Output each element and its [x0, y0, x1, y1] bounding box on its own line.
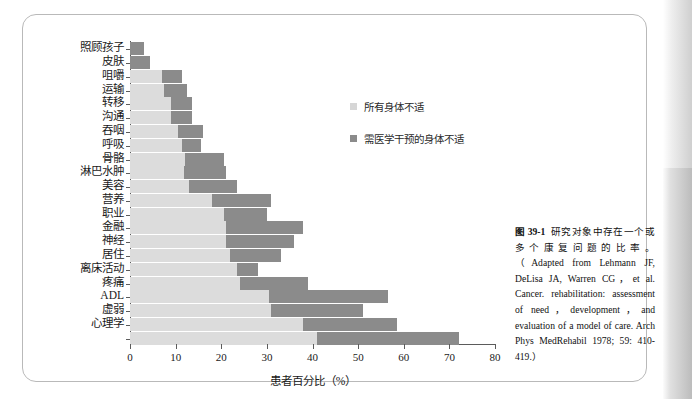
bar-segment-all [130, 70, 162, 83]
caption-source: （Adapted from Lehmann JF, DeLisa JA, War… [515, 257, 655, 362]
y-axis-label-text: 美容 [44, 179, 124, 192]
bar-segment-all [130, 125, 178, 138]
page-edge-band-top [663, 0, 692, 168]
bar-row [130, 263, 495, 276]
y-axis-label-text: 金融 [44, 220, 124, 233]
bar-segment-medical [182, 139, 200, 152]
bar-segment-medical [226, 235, 294, 248]
x-axis-tick [358, 344, 359, 349]
bar-segment-medical [171, 97, 192, 110]
x-axis-tick [130, 344, 131, 349]
bar-row [130, 290, 495, 303]
x-axis-tick [176, 344, 177, 349]
y-axis-label-text: 咀嚼 [44, 69, 124, 82]
bar-row [130, 208, 495, 221]
legend-label: 需医学干预的身体不适 [364, 131, 464, 146]
x-axis-tick [495, 344, 496, 349]
y-axis-label-text: 疼痛 [44, 276, 124, 289]
bar-segment-medical [164, 84, 187, 97]
y-axis-label: 心理学 [44, 317, 124, 330]
bar-segment-medical [212, 194, 271, 207]
y-axis-label: 运输 [44, 83, 124, 96]
legend-swatch [350, 135, 357, 142]
bar-segment-medical [226, 221, 304, 234]
page-edge-band-bottom [663, 168, 692, 399]
y-axis-label: 吞咽 [44, 124, 124, 137]
bar-row [130, 318, 495, 331]
bar-segment-medical [189, 180, 237, 193]
bar-row [130, 70, 495, 83]
y-axis-label: 照顾孩子 [44, 41, 124, 54]
bar-segment-medical [130, 42, 144, 55]
bar-row [130, 221, 495, 234]
x-axis-tick-label: 20 [206, 351, 236, 363]
x-axis-tick-label: 70 [434, 351, 464, 363]
y-axis-label: 居住 [44, 248, 124, 261]
bar-segment-all [130, 180, 189, 193]
x-axis-tick [313, 344, 314, 349]
y-axis-label-text: 离床活动 [44, 262, 124, 275]
bar-segment-all [130, 166, 184, 179]
figure-card: 照顾孩子皮肤咀嚼运输转移沟通吞咽呼吸骨骼淋巴水肿美容营养职业金融神经居住离床活动… [22, 14, 647, 382]
bar-segment-all [130, 111, 171, 124]
y-axis-label: 职业 [44, 207, 124, 220]
bar-row [130, 180, 495, 193]
figure-number: 图 39-1 [515, 226, 545, 237]
y-axis-label-text: 沟通 [44, 110, 124, 123]
x-axis-tick-label: 80 [480, 351, 510, 363]
plot-area: 照顾孩子皮肤咀嚼运输转移沟通吞咽呼吸骨骼淋巴水肿美容营养职业金融神经居住离床活动… [130, 41, 495, 344]
y-axis-label: 转移 [44, 96, 124, 109]
y-axis-label: 呼吸 [44, 138, 124, 151]
x-axis-tick [449, 344, 450, 349]
y-axis-label: 神经 [44, 234, 124, 247]
y-axis-label-text: 运输 [44, 83, 124, 96]
bar-row [130, 304, 495, 317]
bar-row [130, 42, 495, 55]
bar-segment-medical [185, 153, 224, 166]
bar-segment-all [130, 97, 171, 110]
x-axis-title: 患者百分比（%） [130, 372, 496, 388]
y-axis-label: 离床活动 [44, 262, 124, 275]
legend-label: 所有身体不适 [364, 99, 424, 114]
bar-segment-all [130, 318, 303, 331]
bar-segment-all [130, 263, 237, 276]
bar-segment-medical [269, 290, 388, 303]
bar-row [130, 235, 495, 248]
y-axis-label-text: 职业 [44, 207, 124, 220]
chart-legend: 所有身体不适需医学干预的身体不适 [350, 99, 540, 163]
bar-segment-all [130, 290, 269, 303]
y-axis-label-text: 淋巴水肿 [44, 165, 124, 178]
page-edge-decoration [663, 0, 692, 399]
bar-chart: 照顾孩子皮肤咀嚼运输转移沟通吞咽呼吸骨骼淋巴水肿美容营养职业金融神经居住离床活动… [48, 27, 510, 379]
y-axis-label-text: 心理学 [44, 317, 124, 330]
y-axis-label-text: 神经 [44, 234, 124, 247]
y-axis-label-text: 营养 [44, 193, 124, 206]
x-axis-tick-label: 0 [115, 351, 145, 363]
y-axis-label: ADL [44, 289, 124, 302]
bar-segment-medical [171, 111, 192, 124]
y-axis-label: 疼痛 [44, 276, 124, 289]
y-axis-label-text: 转移 [44, 96, 124, 109]
bar-row [130, 249, 495, 262]
x-axis-tick-label: 60 [389, 351, 419, 363]
y-axis-label-text: 虚弱 [44, 303, 124, 316]
bar-row [130, 277, 495, 290]
bar-segment-medical [317, 332, 458, 345]
bar-row [130, 166, 495, 179]
bar-segment-all [130, 194, 212, 207]
x-axis-tick [404, 344, 405, 349]
bar-segment-all [130, 249, 230, 262]
y-axis-label: 虚弱 [44, 303, 124, 316]
legend-item: 需医学干预的身体不适 [350, 131, 540, 146]
bar-segment-medical [184, 166, 226, 179]
y-axis-label: 淋巴水肿 [44, 165, 124, 178]
bar-row [130, 56, 495, 69]
y-axis-label-text: 吞咽 [44, 124, 124, 137]
bar-segment-all [130, 235, 226, 248]
bar-segment-all [130, 139, 182, 152]
y-axis-label-text: ADL [44, 289, 124, 302]
y-axis-label-text: 照顾孩子 [44, 41, 124, 54]
y-axis-label: 美容 [44, 179, 124, 192]
y-axis-label: 皮肤 [44, 55, 124, 68]
bar-segment-medical [130, 56, 150, 69]
